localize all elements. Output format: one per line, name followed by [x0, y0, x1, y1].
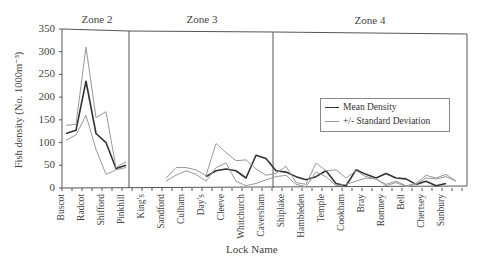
- x-tick-label: Culham: [176, 194, 186, 246]
- x-tick-label: Pinkhill: [116, 194, 126, 246]
- y-tick-label: 0: [31, 181, 55, 193]
- x-tick-label: Shifford: [96, 194, 106, 246]
- legend-item-sd: +/- Standard Deviation: [325, 116, 430, 126]
- y-axis-label: Fish density (No. 1000m⁻³): [12, 40, 24, 180]
- x-tick-label: Romney: [376, 194, 386, 246]
- zone-3-title: Zone 3: [177, 13, 227, 25]
- x-tick-label: Chertsey: [416, 194, 426, 246]
- x-tick-label: Shiplake: [276, 194, 286, 246]
- x-tick-label: Sunbury: [436, 194, 446, 246]
- legend-swatch-sd: [325, 121, 339, 122]
- zone-4-title: Zone 4: [345, 14, 395, 26]
- x-tick-label: King's: [136, 194, 146, 246]
- x-tick-label: Buscot: [56, 194, 66, 246]
- legend-item-mean: Mean Density: [325, 102, 397, 112]
- legend: Mean Density +/- Standard Deviation: [320, 98, 450, 132]
- x-tick-label: Cookham: [336, 194, 346, 246]
- y-tick-label: 300: [31, 45, 55, 57]
- legend-label-mean: Mean Density: [343, 102, 397, 112]
- x-tick-label: Temple: [316, 194, 326, 246]
- x-tick-label: Whitchurch: [236, 194, 246, 246]
- y-tick-label: 250: [31, 67, 55, 79]
- x-tick-label: Cleeve: [216, 194, 226, 246]
- y-tick-label: 100: [31, 136, 55, 148]
- x-tick-label: Caversham: [256, 194, 266, 246]
- y-tick-label: 200: [31, 90, 55, 102]
- x-tick-label: Bell: [396, 194, 406, 246]
- zone-2-title: Zone 2: [72, 13, 122, 25]
- y-tick-label: 50: [31, 158, 55, 170]
- x-axis-label: Lock Name: [226, 243, 278, 255]
- y-tick-label: 350: [31, 22, 55, 34]
- legend-swatch-mean: [325, 107, 339, 108]
- x-tick-label: Sandford: [156, 194, 166, 246]
- x-axis-ticks: [62, 188, 462, 191]
- y-tick-label: 150: [31, 113, 55, 125]
- x-tick-label: Radcot: [76, 194, 86, 246]
- legend-label-sd: +/- Standard Deviation: [343, 116, 430, 126]
- x-tick-label: Day's: [196, 194, 206, 246]
- x-tick-label: Hambleden: [296, 194, 306, 246]
- x-tick-label: Bray: [356, 194, 366, 246]
